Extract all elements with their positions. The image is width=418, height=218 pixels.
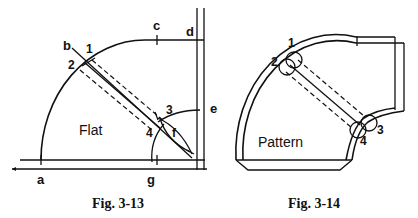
label-3: 3 (166, 103, 173, 117)
label-2: 2 (68, 58, 75, 72)
figure-caption: Fig. 3-13 (92, 196, 144, 211)
label-d: d (186, 24, 194, 39)
arrow-left-icon (12, 167, 16, 171)
diagonal-dashed-1 (92, 60, 165, 122)
label-e: e (210, 101, 217, 116)
pattern-diagonal-solid (290, 65, 360, 125)
diagonal-dashed-2 (80, 70, 152, 130)
region-label-pattern: Pattern (258, 134, 303, 150)
pattern-diagonal-dashed-1 (298, 60, 364, 116)
pattern-label-1: 1 (288, 36, 295, 50)
region-label-flat: Flat (79, 122, 102, 138)
diagram-canvas: a b c d e f g 1 2 3 4 Flat Fig. 3-13 (0, 0, 418, 218)
label-a: a (37, 172, 45, 187)
figure-pattern: 1 2 3 4 Pattern Fig. 3-14 (236, 35, 404, 211)
diagonal-solid-2 (84, 62, 160, 128)
pattern-bottom-flange (236, 160, 352, 170)
pattern-diagonal-dashed-2 (286, 72, 352, 128)
label-f: f (172, 126, 177, 140)
cross-mark-3 (155, 112, 158, 120)
pattern-label-4: 4 (360, 134, 367, 148)
pattern-label-3: 3 (377, 123, 384, 137)
circle-1 (286, 52, 302, 68)
label-b: b (63, 38, 71, 53)
figure-flat: a b c d e f g 1 2 3 4 Flat Fig. 3-13 (12, 8, 217, 211)
label-4: 4 (146, 126, 153, 140)
figure-caption: Fig. 3-14 (288, 196, 340, 211)
arc-g (152, 124, 164, 162)
label-c: c (153, 18, 160, 33)
pattern-label-2: 2 (271, 55, 278, 69)
label-1: 1 (86, 42, 93, 56)
label-g: g (147, 172, 155, 187)
circle-3 (361, 115, 377, 131)
arc-e (158, 110, 200, 122)
